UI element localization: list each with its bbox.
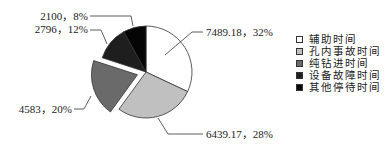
legend-swatch (296, 84, 303, 91)
legend-label: 孔内事故时间 (309, 45, 381, 57)
data-label: 2100，8% (40, 10, 88, 22)
legend-label: 其他停待时间 (309, 81, 381, 93)
leader-line (158, 118, 203, 134)
legend-swatch (296, 72, 303, 79)
pie-slices (91, 26, 192, 118)
legend-item-pure-drilling-time: 纯钻进时间 (296, 57, 381, 69)
legend-item-auxiliary-time: 辅助时间 (296, 33, 381, 45)
legend-swatch (296, 36, 303, 43)
legend-item-other-downtime: 其他停待时间 (296, 81, 381, 93)
legend-swatch (296, 48, 303, 55)
legend-label: 纯钻进时间 (309, 57, 369, 69)
legend-swatch (296, 60, 303, 67)
legend-item-borehole-accident-time: 孔内事故时间 (296, 45, 381, 57)
data-label: 2796，12% (35, 23, 88, 35)
data-label: 7489.18，32% (206, 26, 273, 38)
legend-item-equipment-failure-time: 设备故障时间 (296, 69, 381, 81)
legend: 辅助时间 孔内事故时间 纯钻进时间 设备故障时间 其他停待时间 (296, 33, 381, 93)
legend-label: 辅助时间 (309, 33, 357, 45)
data-label: 4583，20% (19, 103, 72, 115)
leader-line (74, 96, 91, 109)
legend-label: 设备故障时间 (309, 69, 381, 81)
leader-line (90, 30, 107, 44)
leader-line (90, 16, 133, 26)
data-label: 6439.17，28% (206, 128, 273, 140)
